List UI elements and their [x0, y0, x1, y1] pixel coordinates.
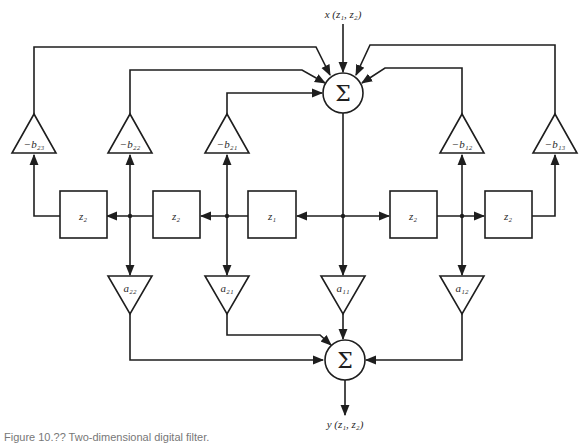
feedback-wire-b13 — [356, 45, 555, 114]
sigma-symbol-top: Σ — [335, 81, 351, 106]
svg-text:a₂₂: a₂₂ — [123, 282, 136, 294]
svg-text:−b₂₁: −b₂₁ — [217, 138, 238, 150]
feedforward-wires — [130, 314, 462, 360]
gain-b12-triangle: −b₁₂ — [440, 114, 484, 153]
gain-b21-triangle: −b₂₁ — [205, 114, 249, 153]
svg-text:z₂: z₂ — [78, 210, 87, 222]
sigma-symbol-bottom: Σ — [337, 348, 353, 373]
feedback-wire-b21 — [227, 93, 322, 114]
svg-text:−b₁₂: −b₁₂ — [452, 138, 473, 150]
delay-z2-left-inner: z₂ — [153, 191, 200, 238]
svg-text:z₂: z₂ — [171, 210, 180, 222]
output-label: y (z₁, z₂) — [326, 418, 364, 431]
gain-a21-triangle: a₂₁ — [205, 276, 249, 314]
gain-b23-triangle: −b₂₃ — [12, 114, 56, 153]
svg-text:z₂: z₂ — [408, 210, 417, 222]
svg-text:z₁: z₁ — [267, 210, 276, 222]
figure-caption: Figure 10.?? Two-dimensional digital fil… — [4, 431, 209, 443]
delay-z2-right-outer: z₂ — [485, 191, 532, 238]
delay-z1-center: z₁ — [248, 191, 296, 238]
svg-text:−b₁₃: −b₁₃ — [545, 138, 566, 150]
svg-text:a₁₁: a₁₁ — [336, 282, 349, 294]
svg-text:z₂: z₂ — [503, 210, 512, 222]
delay-z2-right-inner: z₂ — [390, 191, 437, 238]
top-summer: Σ — [323, 73, 363, 113]
gain-a22-triangle: a₂₂ — [108, 276, 152, 314]
bottom-summer: Σ — [325, 340, 365, 380]
gain-b22-triangle: −b₂₂ — [108, 114, 152, 153]
svg-text:a₂₁: a₂₁ — [220, 282, 233, 294]
input-label: x (z₁, z₂) — [324, 8, 362, 21]
gain-a11-triangle: a₁₁ — [321, 276, 365, 314]
svg-text:−b₂₂: −b₂₂ — [120, 138, 141, 150]
svg-text:a₁₂: a₁₂ — [455, 282, 468, 294]
delay-z2-left-outer: z₂ — [60, 191, 107, 238]
gain-b13-triangle: −b₁₃ — [533, 114, 577, 153]
feedback-wire-b23 — [34, 47, 330, 114]
gain-a12-triangle: a₁₂ — [440, 276, 484, 314]
svg-text:−b₂₃: −b₂₃ — [24, 138, 45, 150]
feedback-wire-b12 — [362, 68, 462, 114]
